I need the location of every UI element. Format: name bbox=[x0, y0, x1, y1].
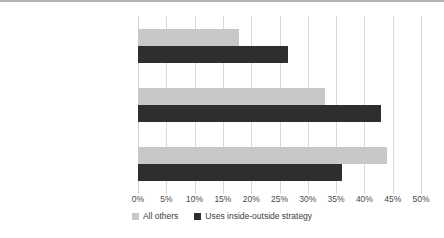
plot-area: organizational membershipsindividual mem… bbox=[138, 16, 421, 194]
x-tick-label: 0% bbox=[132, 195, 144, 204]
legend-swatch-icon bbox=[194, 213, 201, 220]
bar bbox=[138, 164, 342, 181]
x-tick-label: 30% bbox=[299, 195, 316, 204]
x-tick-label: 20% bbox=[243, 195, 260, 204]
bar bbox=[138, 147, 387, 164]
bar bbox=[138, 105, 381, 122]
legend-entry[interactable]: Uses inside-outside strategy bbox=[194, 212, 312, 221]
bar-group: individual memberships bbox=[138, 88, 421, 122]
gridline-50pct bbox=[421, 16, 422, 194]
x-tick-label: 15% bbox=[214, 195, 231, 204]
legend-label: Uses inside-outside strategy bbox=[205, 212, 312, 221]
x-tick-label: 40% bbox=[356, 195, 373, 204]
x-tick-label: 45% bbox=[384, 195, 401, 204]
chart-legend: All othersUses inside-outside strategy bbox=[0, 212, 444, 221]
x-tick-label: 50% bbox=[412, 195, 429, 204]
x-tick-label: 25% bbox=[271, 195, 288, 204]
x-tick-label: 35% bbox=[328, 195, 345, 204]
legend-entry[interactable]: All others bbox=[132, 212, 178, 221]
bar bbox=[138, 29, 239, 46]
bar bbox=[138, 88, 325, 105]
bar-chart: organizational membershipsindividual mem… bbox=[0, 0, 444, 238]
bar-group: no memberships bbox=[138, 147, 421, 181]
legend-label: All others bbox=[143, 212, 178, 221]
legend-swatch-icon bbox=[132, 213, 139, 220]
x-tick-label: 10% bbox=[186, 195, 203, 204]
bar-group: organizational memberships bbox=[138, 29, 421, 63]
x-tick-label: 5% bbox=[160, 195, 172, 204]
bar bbox=[138, 46, 288, 63]
x-axis-tick-labels: 0%5%10%15%20%25%30%35%40%45%50% bbox=[138, 195, 421, 209]
